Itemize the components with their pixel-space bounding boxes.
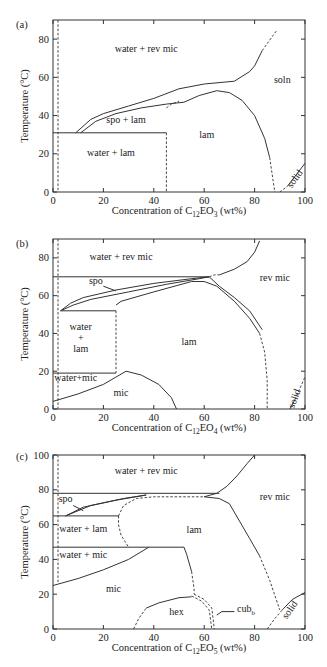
x-tick-label: 100	[297, 412, 313, 423]
y-tick-label: 60	[39, 72, 50, 83]
region-label: lam	[187, 524, 202, 535]
region-label: water + rev mic	[115, 465, 179, 476]
phase-boundary	[184, 547, 192, 571]
region-label: hex	[169, 606, 183, 617]
x-tick-label: 100	[297, 195, 313, 206]
spo-leader	[103, 286, 116, 291]
phase-boundary	[66, 495, 147, 516]
region-label: spo	[59, 493, 73, 504]
x-tick-label: 100	[297, 632, 313, 643]
region-label: water	[70, 321, 93, 332]
region-label: spo + lam	[106, 114, 146, 125]
phase-boundary	[280, 186, 288, 192]
phase-boundary	[192, 572, 195, 595]
y-tick-label: 80	[39, 252, 50, 263]
region-label: rev mic	[260, 491, 291, 502]
x-tick-label: 0	[50, 632, 55, 643]
phase-boundary	[204, 455, 254, 497]
region-label: water+mic	[54, 372, 97, 383]
y-tick-label: 20	[39, 589, 50, 600]
x-tick-label: 20	[98, 632, 109, 643]
phase-boundary	[262, 30, 277, 51]
region-label: solid	[279, 598, 299, 620]
plot-frame	[53, 455, 305, 629]
panel-c: 020406080100020406080100(c)Temperature (…	[16, 450, 313, 657]
phase-boundary	[260, 556, 280, 610]
y-tick-label: 0	[44, 624, 49, 635]
x-tick-label: 20	[98, 412, 109, 423]
y-axis-label: Temperature (°C)	[19, 505, 31, 579]
plot-frame	[53, 20, 305, 192]
region-label: rev mic	[260, 272, 291, 283]
region-label: water + rev mic	[89, 251, 153, 262]
y-tick-label: 100	[33, 450, 49, 461]
y-tick-label: 40	[39, 328, 50, 339]
phase-boundary	[194, 594, 214, 629]
phase-boundary	[166, 101, 179, 108]
x-axis-label: Concentration of C12EO4 (wt%)	[112, 422, 247, 436]
phase-diagram-figure: 020406080100020406080(a)Temperature (°C)…	[0, 0, 327, 667]
phase-boundary	[61, 277, 210, 311]
region-label: water + rev mic	[115, 43, 179, 54]
phase-boundary	[219, 241, 259, 275]
x-tick-label: 80	[249, 412, 260, 423]
phase-boundary	[116, 282, 260, 334]
x-tick-label: 0	[50, 195, 55, 206]
y-tick-label: 40	[39, 554, 50, 565]
y-tick-label: 20	[39, 148, 50, 159]
x-axis-label: Concentration of C12EO3 (wt%)	[112, 205, 247, 219]
region-label: solid	[284, 167, 304, 189]
cub-leader	[217, 612, 222, 615]
y-axis-label: Temperature (°C)	[19, 69, 31, 143]
x-tick-label: 0	[50, 412, 55, 423]
region-label: lam	[73, 343, 88, 354]
phase-boundary	[209, 275, 219, 277]
region-label: +	[78, 332, 84, 343]
region-label: water + mic	[59, 549, 107, 560]
region-label: mic	[106, 583, 122, 594]
phase-boundary	[66, 495, 147, 516]
phase-boundary	[260, 333, 268, 409]
y-axis-label: Temperature (°C)	[19, 287, 31, 361]
phase-boundary	[126, 371, 176, 409]
y-tick-label: 20	[39, 366, 50, 377]
phase-boundary	[192, 596, 212, 629]
phase-boundary	[204, 497, 259, 556]
region-label: spo	[89, 275, 103, 286]
y-tick-label: 80	[39, 34, 50, 45]
y-tick-label: 60	[39, 519, 50, 530]
region-label: solid	[286, 387, 303, 409]
x-tick-label: 20	[98, 195, 109, 206]
region-label: water + lam	[59, 523, 107, 534]
phase-boundary	[61, 277, 210, 311]
region-label: mic	[114, 387, 130, 398]
phase-boundary	[134, 608, 147, 629]
panel-label: (b)	[16, 238, 29, 250]
region-label: lam	[182, 336, 197, 347]
y-tick-label: 40	[39, 110, 50, 121]
y-tick-label: 60	[39, 290, 50, 301]
phase-boundary	[119, 516, 129, 547]
phase-boundary	[270, 158, 275, 192]
y-tick-label: 80	[39, 484, 50, 495]
phase-boundary	[119, 497, 205, 516]
phase-boundary	[76, 51, 263, 133]
region-label: water + lam	[87, 147, 135, 158]
panel-b: 020406080100020406080(b)Temperature (°C)…	[16, 238, 313, 436]
phase-boundary	[184, 91, 270, 158]
panel-label: (c)	[16, 451, 28, 463]
y-tick-label: 0	[44, 187, 49, 198]
region-label: cubb	[237, 603, 255, 617]
region-label: lam	[199, 129, 214, 140]
panel-a: 020406080100020406080(a)Temperature (°C)…	[16, 19, 313, 219]
x-tick-label: 80	[249, 632, 260, 643]
x-axis-label: Concentration of C12EO5 (wt%)	[112, 642, 247, 656]
y-tick-label: 0	[44, 404, 49, 415]
panel-label: (a)	[16, 19, 28, 31]
region-label: soln	[274, 74, 291, 85]
x-tick-label: 80	[249, 195, 260, 206]
